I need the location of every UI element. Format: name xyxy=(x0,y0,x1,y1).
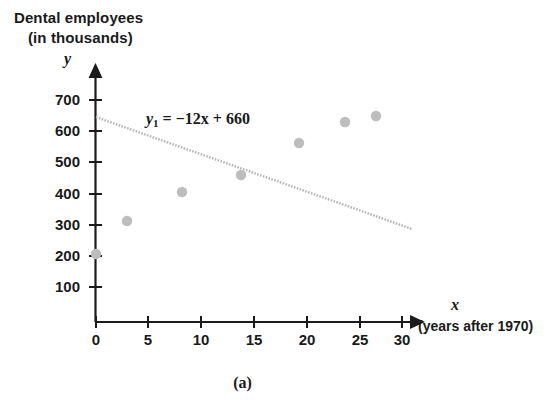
y-tick-label-700: 700 xyxy=(40,91,80,108)
x-tick-label-25: 25 xyxy=(345,331,375,348)
regression-line xyxy=(96,117,412,229)
x-tick-label-30: 30 xyxy=(387,331,417,348)
x-tick-label-5: 5 xyxy=(133,331,163,348)
y-tick-label-500: 500 xyxy=(40,153,80,170)
figure-container: Dental employees (in thousands) y x (yea… xyxy=(0,0,557,412)
y-tick-label-200: 200 xyxy=(40,247,80,264)
y-tick-label-400: 400 xyxy=(40,185,80,202)
y-tick-label-600: 600 xyxy=(40,122,80,139)
data-point xyxy=(177,187,187,197)
data-point xyxy=(236,170,246,180)
data-point xyxy=(340,117,350,127)
data-point xyxy=(122,216,132,226)
x-tick-label-15: 15 xyxy=(239,331,269,348)
data-point xyxy=(91,249,101,259)
data-points xyxy=(91,111,381,259)
plot-svg xyxy=(0,0,557,412)
x-tick-label-0: 0 xyxy=(81,331,111,348)
y-tick-label-100: 100 xyxy=(40,278,80,295)
x-tick-label-20: 20 xyxy=(292,331,322,348)
x-tick-label-10: 10 xyxy=(186,331,216,348)
figure-caption: (a) xyxy=(0,374,485,392)
y-tick-label-300: 300 xyxy=(40,216,80,233)
data-point xyxy=(371,111,381,121)
data-point xyxy=(294,138,304,148)
